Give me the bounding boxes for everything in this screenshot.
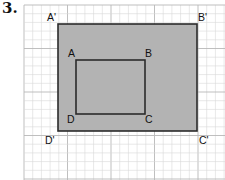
vertex-label-b-prime: B': [198, 11, 207, 23]
outer-rectangle-a-prime-b-prime-c-prime-d-prime: [58, 24, 197, 131]
vertex-label-d: D: [67, 113, 75, 125]
vertex-label-a-prime: A': [47, 11, 56, 23]
vertex-label-a: A: [68, 47, 75, 59]
vertex-label-b: B: [145, 47, 152, 59]
vertex-label-d-prime: D': [45, 134, 55, 146]
dilation-diagram: A' B' C' D' A B C D: [0, 0, 225, 180]
vertex-label-c: C: [145, 113, 153, 125]
figure-stage: 3. A' B' C' D' A B C D: [0, 0, 225, 180]
vertex-label-c-prime: C': [199, 134, 209, 146]
